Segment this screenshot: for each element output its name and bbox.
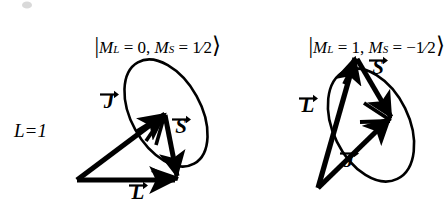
ket-close-bracket: ⟩ [212, 33, 221, 58]
ket-ml-symbol: M [99, 38, 113, 57]
ket-ml-value: 0 [138, 38, 147, 57]
vector-label-L-right: L [297, 93, 319, 118]
ket-ms-denominator: 2 [427, 38, 436, 57]
cone-ruling-right-3 [360, 121, 390, 122]
ket-ms-equals: = [174, 38, 192, 57]
ket-ms-minus: − [406, 38, 416, 57]
ket-ms-numerator: 1 [192, 38, 201, 57]
vector-arrow-accent-icon [127, 180, 149, 189]
vector-label-J-right: J [338, 148, 360, 173]
state-label-text: L=1 [14, 120, 47, 141]
ket-ml-symbol: M [313, 38, 327, 57]
ket-label-right: |ML = 1, MS = −1⁄2⟩ [283, 12, 445, 79]
ket-separator: , [146, 38, 155, 57]
vector-arrow-accent-icon [170, 114, 192, 123]
ket-label-left: |ML = 0, MS = 1⁄2⟩ [69, 12, 221, 79]
ket-close-bracket: ⟩ [436, 33, 445, 58]
vector-arrow-accent-icon [367, 55, 389, 64]
ket-ml-equals: = [333, 38, 351, 57]
ket-ms-equals: = [388, 38, 406, 57]
vector-label-J-left: J [98, 89, 120, 114]
vector-label-S-right: S [367, 55, 389, 80]
vector-arrow-accent-icon [338, 148, 360, 157]
vector-label-L-left: L [127, 180, 149, 205]
ket-ms-symbol: M [155, 38, 169, 57]
scan-artifact-speck [22, 1, 32, 8]
ket-ml-value: 1 [352, 38, 361, 57]
vector-label-S-left: S [170, 114, 192, 139]
vector-arrow-accent-icon [98, 89, 120, 98]
ket-ml-equals: = [119, 38, 137, 57]
vector-arrow-accent-icon [297, 93, 319, 102]
state-label-L-equals-1: L=1 [14, 120, 47, 142]
ket-ms-denominator: 2 [204, 38, 213, 57]
